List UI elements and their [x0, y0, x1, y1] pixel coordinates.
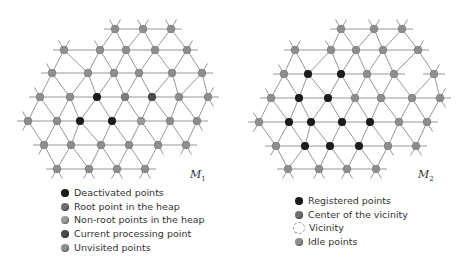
mesh-point [48, 69, 56, 77]
mesh-point [327, 46, 335, 54]
mesh-point [326, 142, 334, 150]
mesh-label-m1-sub: 1 [201, 175, 205, 183]
mesh-edge [179, 97, 197, 121]
mesh-edge [289, 122, 305, 146]
legend-item-vicinity: Vicinity [295, 221, 408, 235]
mesh-edge [64, 50, 88, 73]
legend-label: Registered points [308, 194, 391, 208]
mesh-point [337, 70, 345, 78]
mesh-edge [71, 145, 89, 169]
mesh-point [351, 94, 359, 102]
mesh-point [122, 46, 130, 54]
mesh-point [338, 118, 346, 126]
mesh-edge [125, 97, 141, 121]
deactivated-point-icon [61, 189, 69, 197]
mesh-point [390, 70, 398, 78]
mesh-label-m1: M1 [190, 168, 206, 183]
mesh-point [408, 94, 416, 102]
legend-item-current: Current processing point [61, 227, 205, 241]
mesh-point [154, 141, 162, 149]
mesh-point [267, 94, 275, 102]
mesh-label-m2-sub: 2 [429, 175, 433, 183]
mesh-point [324, 94, 332, 102]
mesh-label-m1-main: M [190, 168, 201, 181]
legend-label: Vicinity [309, 221, 344, 235]
mesh-point [148, 93, 156, 101]
mesh-label-m2: M2 [418, 168, 434, 183]
mesh-point [85, 165, 93, 173]
mesh-point [372, 165, 380, 173]
mesh-point [315, 165, 323, 173]
legend-left: Deactivated points Root point in the hea… [61, 186, 205, 255]
legend-item-registered: Registered points [295, 194, 408, 208]
legend-label: Current processing point [74, 227, 191, 241]
mesh-point [53, 117, 61, 125]
mesh-edge [52, 73, 70, 97]
mesh-point [430, 70, 438, 78]
mesh-edge [412, 74, 434, 98]
mesh-edge [80, 97, 97, 121]
mesh-point [121, 93, 129, 101]
center-point-icon [295, 211, 303, 219]
mesh-point [395, 118, 403, 126]
idle-point-icon [295, 238, 303, 246]
mesh-point [139, 25, 147, 33]
mesh-m1 [17, 19, 219, 178]
registered-point-icon [295, 197, 303, 205]
mesh-edge [259, 122, 276, 146]
legend-label: Non-root points in the heap [74, 213, 205, 227]
legend-label: Unvisited points [74, 241, 151, 255]
legend-item-non-root: Non-root points in the heap [61, 213, 205, 227]
mesh-edge [311, 98, 328, 122]
mesh-point [198, 69, 206, 77]
mesh-point [291, 46, 299, 54]
mesh-point [67, 141, 75, 149]
mesh-edge [70, 73, 88, 97]
mesh-point [384, 142, 392, 150]
mesh-point [352, 46, 360, 54]
mesh-point [355, 142, 363, 150]
mesh-point [182, 141, 190, 149]
mesh-point [284, 165, 292, 173]
mesh-edge [370, 122, 388, 146]
mesh-point [304, 70, 312, 78]
mesh-point [60, 46, 68, 54]
legend-right: Registered points Center of the vicinity… [295, 194, 408, 249]
mesh-point [337, 25, 345, 33]
mesh-point [111, 25, 119, 33]
mesh-edge [394, 74, 412, 98]
mesh-point [370, 25, 378, 33]
mesh-point [272, 142, 280, 150]
mesh-point [301, 142, 309, 150]
mesh-point [414, 46, 422, 54]
mesh-point [53, 165, 61, 173]
mesh-point [151, 46, 159, 54]
mesh-edge [330, 146, 347, 169]
mesh-point [96, 46, 104, 54]
mesh-point [110, 69, 118, 77]
legend-item-center: Center of the vicinity [295, 208, 408, 222]
mesh-point [363, 70, 371, 78]
mesh-point [285, 118, 293, 126]
current-point-icon [61, 230, 69, 238]
mesh-point [97, 141, 105, 149]
mesh-point [255, 118, 263, 126]
mesh-edge [141, 121, 158, 145]
mesh-point [423, 118, 431, 126]
mesh-edge [271, 98, 289, 122]
mesh-point [175, 93, 183, 101]
mesh-point [135, 69, 143, 77]
mesh-point [166, 117, 174, 125]
non-root-point-icon [61, 216, 69, 224]
mesh-edge [394, 50, 418, 74]
vicinity-circle-icon [293, 222, 305, 234]
mesh-edge [80, 121, 101, 145]
mesh-point [307, 118, 315, 126]
mesh-edge [359, 146, 376, 169]
mesh-point [125, 141, 133, 149]
mesh-point [36, 93, 44, 101]
mesh-point [137, 117, 145, 125]
mesh-edge [112, 121, 129, 145]
legend-item-root: Root point in the heap [61, 200, 205, 214]
mesh-edge [170, 121, 186, 145]
